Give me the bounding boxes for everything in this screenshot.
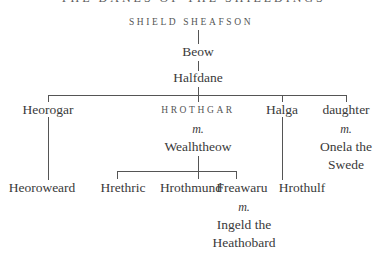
node-ingeld-line1: Ingeld the bbox=[217, 215, 271, 235]
node-onela-line2: Swede bbox=[328, 155, 364, 175]
node-hrothulf: Hrothulf bbox=[279, 178, 326, 198]
node-halfdane: Halfdane bbox=[173, 68, 222, 88]
connector-line bbox=[198, 87, 199, 95]
node-hrothgar: HROTHGAR bbox=[161, 100, 235, 120]
node-hrethric: Hrethric bbox=[101, 178, 146, 198]
node-beow: Beow bbox=[182, 42, 214, 62]
node-daughter: daughter bbox=[322, 100, 369, 120]
connector-line bbox=[282, 117, 283, 180]
node-wealhtheow: Wealhtheow bbox=[164, 137, 231, 157]
sibling-bar-gen4 bbox=[117, 171, 237, 172]
node-hrothmund: Hrothmund bbox=[160, 178, 222, 198]
marriage-label: m. bbox=[238, 197, 250, 217]
connector-line bbox=[198, 156, 199, 171]
connector-line bbox=[48, 117, 49, 180]
node-freawaru: Freawaru bbox=[217, 178, 268, 198]
node-shield-sheafson: SHIELD SHEAFSON bbox=[129, 12, 253, 32]
node-ingeld-line2: Heathobard bbox=[213, 233, 276, 253]
node-heoroweard: Heoroweard bbox=[9, 178, 76, 198]
diagram-title: THE DANES OF THE SHIELDINGS bbox=[0, 0, 386, 6]
marriage-label: m. bbox=[340, 119, 352, 139]
node-onela-line1: Onela the bbox=[320, 137, 372, 157]
marriage-label: m. bbox=[192, 119, 204, 139]
